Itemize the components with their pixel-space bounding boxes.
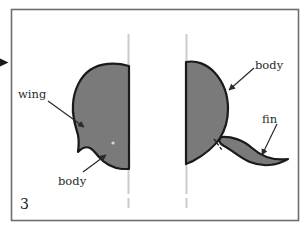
left-shape-speck — [111, 141, 114, 144]
figure-number: 3 — [20, 197, 29, 211]
label-fin: fin — [262, 114, 277, 126]
figure-container: wing body body fin 3 — [0, 0, 308, 234]
label-wing: wing — [18, 89, 46, 101]
label-body-right: body — [255, 60, 283, 72]
label-body-left: body — [58, 176, 86, 188]
